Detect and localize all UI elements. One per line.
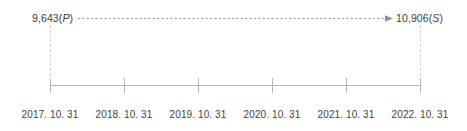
end-paren-close: ) (439, 12, 443, 24)
axis-tick-label-2021: 2021. 10. 31 (318, 110, 375, 120)
arrowhead-icon (385, 15, 393, 22)
connector-arrow (78, 15, 393, 22)
axis-tick-label-2022: 2022. 10. 31 (392, 110, 449, 120)
axis-tick-label-2019: 2019. 10. 31 (170, 110, 227, 120)
start-value-label: 9,643(P) (32, 13, 73, 24)
axis-tick-label-2017: 2017. 10. 31 (22, 110, 79, 120)
timeline-chart: 9,643(P) 10,906(S) 2017. 10. 31 2018. 10… (0, 0, 467, 131)
start-value-number: 9,643 (32, 12, 59, 24)
start-value-symbol: P (62, 12, 69, 24)
end-value-label: 10,906(S) (396, 13, 443, 24)
end-value-number: 10,906 (396, 12, 429, 24)
start-paren-close: ) (70, 12, 74, 24)
axis-tick-label-2018: 2018. 10. 31 (96, 110, 153, 120)
axis-tick-label-2020: 2020. 10. 31 (244, 110, 301, 120)
